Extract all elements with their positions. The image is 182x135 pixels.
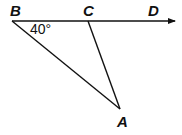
label-c: C [83,2,95,19]
label-b: B [10,2,21,19]
label-a: A [116,113,128,130]
triangle-diagram: B C D A 40° [0,0,182,135]
angle-label-b: 40° [30,21,51,37]
label-d: D [148,2,159,19]
